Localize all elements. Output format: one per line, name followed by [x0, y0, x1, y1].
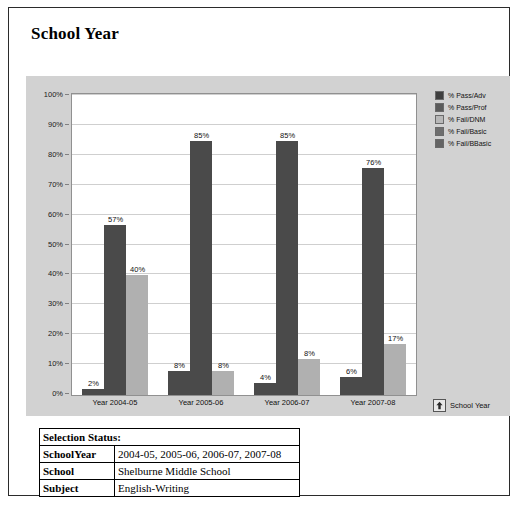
bar-value-label: 76%	[366, 158, 381, 167]
bar[interactable]: 6%	[340, 377, 362, 395]
legend-item[interactable]: % Fail/DNM	[435, 114, 507, 125]
table-row: SubjectEnglish-Writing	[40, 480, 300, 497]
report-page-frame: School Year 0%10%20%30%40%50%60%70%80%90…	[8, 7, 510, 496]
y-tick-mark	[65, 184, 69, 185]
y-tick-mark	[65, 214, 69, 215]
bar[interactable]: 85%	[190, 141, 212, 395]
page-title: School Year	[31, 24, 119, 44]
bar-group: 2%57%40%	[82, 94, 148, 395]
bar-value-label: 6%	[346, 367, 357, 376]
legend-swatch	[435, 139, 444, 148]
bar-group: 4%85%8%	[254, 94, 320, 395]
bar[interactable]: 2%	[82, 389, 104, 395]
y-tick-label: 20%	[48, 329, 63, 338]
x-tick-label: Year 2004-05	[93, 398, 138, 407]
legend-swatch	[435, 103, 444, 112]
bar-value-label: 17%	[388, 334, 403, 343]
legend-label: % Fail/DNM	[448, 116, 485, 123]
legend-swatch	[435, 127, 444, 136]
bar-series-layer: 2%57%40%8%85%8%4%85%8%6%76%17%	[72, 94, 416, 395]
bar[interactable]: 8%	[298, 359, 320, 395]
bar-value-label: 40%	[130, 265, 145, 274]
bar[interactable]: 17%	[384, 344, 406, 395]
selection-key: SchoolYear	[40, 446, 115, 463]
bar[interactable]: 85%	[276, 141, 298, 395]
y-tick-label: 10%	[48, 359, 63, 368]
selection-status-header: Selection Status:	[40, 429, 300, 446]
y-tick-mark	[65, 273, 69, 274]
y-tick-label: 70%	[48, 179, 63, 188]
selection-key: Subject	[40, 480, 115, 497]
selection-key: School	[40, 463, 115, 480]
y-tick-mark	[65, 124, 69, 125]
bar-value-label: 8%	[304, 349, 315, 358]
x-tick-label: Year 2006-07	[265, 398, 310, 407]
selection-value: Shelburne Middle School	[115, 463, 300, 480]
y-tick-label: 50%	[48, 239, 63, 248]
chart-legend: % Pass/Adv% Pass/Prof% Fail/DNM% Fail/Ba…	[435, 90, 507, 150]
y-tick-mark	[65, 94, 69, 95]
legend-item[interactable]: % Fail/BBasic	[435, 138, 507, 149]
chart-container: 0%10%20%30%40%50%60%70%80%90%100% 2%57%4…	[26, 76, 510, 416]
legend-label: % Pass/Adv	[448, 92, 486, 99]
y-tick-label: 60%	[48, 209, 63, 218]
y-tick-mark	[65, 303, 69, 304]
table-row: SchoolYear2004-05, 2005-06, 2006-07, 200…	[40, 446, 300, 463]
drill-up-control[interactable]: School Year	[433, 399, 490, 412]
bar-value-label: 4%	[260, 373, 271, 382]
x-tick-label: Year 2005-06	[179, 398, 224, 407]
bar[interactable]: 40%	[126, 275, 148, 395]
bar-value-label: 2%	[88, 379, 99, 388]
x-tick-label: Year 2007-08	[351, 398, 396, 407]
up-arrow-icon[interactable]	[433, 399, 446, 412]
y-tick-label: 40%	[48, 269, 63, 278]
y-tick-mark	[65, 393, 69, 394]
bar-value-label: 57%	[108, 215, 123, 224]
legend-item[interactable]: % Fail/Basic	[435, 126, 507, 137]
bar[interactable]: 57%	[104, 225, 126, 395]
bar[interactable]: 8%	[212, 371, 234, 395]
bar-value-label: 85%	[194, 131, 209, 140]
drill-up-label: School Year	[450, 401, 490, 410]
y-tick-label: 0%	[52, 389, 63, 398]
legend-item[interactable]: % Pass/Prof	[435, 102, 507, 113]
bar[interactable]: 8%	[168, 371, 190, 395]
selection-status-table: Selection Status: SchoolYear2004-05, 200…	[39, 428, 300, 497]
legend-swatch	[435, 115, 444, 124]
y-tick-mark	[65, 333, 69, 334]
legend-swatch	[435, 91, 444, 100]
bar-value-label: 8%	[218, 361, 229, 370]
bar-group: 8%85%8%	[168, 94, 234, 395]
legend-label: % Fail/BBasic	[448, 140, 491, 147]
legend-label: % Pass/Prof	[448, 104, 487, 111]
x-axis: Year 2004-05Year 2005-06Year 2006-07Year…	[72, 398, 416, 412]
y-tick-mark	[65, 244, 69, 245]
y-tick-label: 100%	[44, 90, 63, 99]
table-row: SchoolShelburne Middle School	[40, 463, 300, 480]
bar-value-label: 85%	[280, 131, 295, 140]
bar-group: 6%76%17%	[340, 94, 406, 395]
legend-label: % Fail/Basic	[448, 128, 487, 135]
bar[interactable]: 76%	[362, 168, 384, 395]
legend-item[interactable]: % Pass/Adv	[435, 90, 507, 101]
y-tick-mark	[65, 154, 69, 155]
selection-value: 2004-05, 2005-06, 2006-07, 2007-08	[115, 446, 300, 463]
table-row-header: Selection Status:	[40, 429, 300, 446]
bar[interactable]: 4%	[254, 383, 276, 395]
bar-value-label: 8%	[174, 361, 185, 370]
selection-value: English-Writing	[115, 480, 300, 497]
y-tick-label: 30%	[48, 299, 63, 308]
selection-status-body: Selection Status: SchoolYear2004-05, 200…	[40, 429, 300, 497]
y-tick-label: 90%	[48, 119, 63, 128]
y-tick-label: 80%	[48, 149, 63, 158]
y-axis: 0%10%20%30%40%50%60%70%80%90%100%	[26, 93, 69, 396]
y-tick-mark	[65, 363, 69, 364]
